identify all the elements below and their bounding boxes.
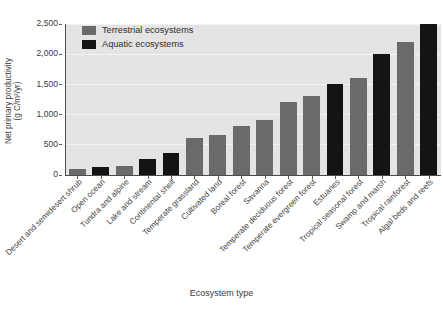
legend-item: Terrestrial ecosystems [82,24,193,37]
y-axis-title: Net primary productivity (g C/m²/yr) [0,26,26,176]
x-tick-mark [265,175,266,179]
y-axis-title-line2: (g C/m²/yr) [13,81,22,120]
x-tick-label: Continental shelf [129,178,177,226]
y-tick-mark [59,144,63,145]
bar [116,166,133,174]
x-tick-mark [241,175,242,179]
bar [163,153,180,175]
bar [280,102,297,174]
x-tick-label: Swamp and marsh [335,178,388,231]
x-tick-mark [124,175,125,179]
x-tick-mark [288,175,289,179]
x-axis-title: Ecosystem type [0,289,443,298]
bar-cell [370,24,393,175]
x-tick-mark [312,175,313,179]
bar [209,135,226,175]
y-tick-label: 2,000 [36,49,58,58]
bar [303,96,320,175]
x-tick-label: Temperate deciduous forest [218,178,294,254]
y-tick-label: 0 [53,170,58,179]
x-tick-label: Estuaries [312,178,342,208]
bar [373,54,390,175]
x-tick-mark [335,175,336,179]
x-tick-label: Tropical rainforest [360,178,411,229]
legend-label: Terrestrial ecosystems [102,26,193,35]
x-tick-mark [218,175,219,179]
x-tick-label: Temperate grassland [142,178,201,237]
bar [139,159,156,174]
legend-swatch-aquatic [82,40,96,49]
x-tick-label: Tundra and alpine [79,178,131,230]
y-tick-mark [59,54,63,55]
bar [397,42,414,175]
bar-cell [300,24,323,175]
y-tick-label: 1,000 [36,110,58,119]
x-tick-mark [77,175,78,179]
y-tick-label: 2,500 [36,19,58,28]
x-tick-mark [101,175,102,179]
legend-label: Aquatic ecosystems [102,40,184,49]
x-tick-mark [171,175,172,179]
x-tick-mark [194,175,195,179]
x-tick-mark [358,175,359,179]
bar-cell [347,24,370,175]
x-tick-label: Savanna [243,178,271,206]
bar [420,24,437,175]
x-tick-label: Open ocean [70,178,107,215]
x-tick-label: Boreal forest [209,178,247,216]
x-tick-mark [148,175,149,179]
y-tick-mark [59,175,63,176]
bar-cell [323,24,346,175]
bar [92,167,109,175]
x-tick-label: Tropical seasonal forest [299,178,365,244]
chart-figure: Net primary productivity (g C/m²/yr) 050… [0,0,443,309]
x-tick-label: Lake and stream [106,178,154,226]
bar-cell [394,24,417,175]
x-tick-label: Temperate evergreen forest [242,178,318,254]
bar [350,78,367,175]
y-tick-label: 1,500 [36,80,58,89]
bar-cell [253,24,276,175]
bar [233,126,250,175]
x-tick-mark [382,175,383,179]
bar-cell [417,24,440,175]
bar [69,169,86,174]
bar-cell [276,24,299,175]
bar [256,120,273,174]
y-tick-mark [59,24,63,25]
x-axis-ticks [66,175,441,180]
bar [186,138,203,174]
legend-item: Aquatic ecosystems [82,38,193,51]
legend-swatch-terrestrial [82,26,96,35]
y-tick-mark [59,84,63,85]
y-axis-ticks: 05001,0001,5002,0002,500 [26,0,62,309]
bar-cell [206,24,229,175]
bar-cell [230,24,253,175]
x-tick-label: Cultivated land [181,178,225,222]
bar [327,84,344,175]
x-tick-label: Algal beds and reefs [377,178,435,236]
y-axis-title-line1: Net primary productivity [4,58,13,144]
chart-legend: Terrestrial ecosystemsAquatic ecosystems [82,24,193,52]
y-tick-mark [59,114,63,115]
x-tick-mark [405,175,406,179]
x-tick-mark [429,175,430,179]
y-tick-label: 500 [44,140,58,149]
